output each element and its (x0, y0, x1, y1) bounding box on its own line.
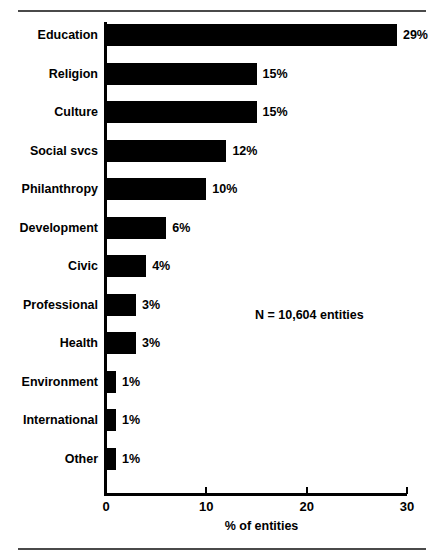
bar-category-label: Philanthropy (0, 178, 98, 200)
bar-category-label: International (0, 409, 98, 431)
bar (106, 332, 136, 354)
bar (106, 255, 146, 277)
bar-value-label: 4% (152, 255, 170, 277)
bar (106, 24, 397, 46)
bar-category-label: Religion (0, 63, 98, 85)
bar-row: Environment1% (0, 371, 441, 409)
bar-row: Philanthropy10% (0, 178, 441, 216)
bar-row: Other1% (0, 448, 441, 486)
bottom-divider-rule (18, 548, 426, 550)
x-axis-tick-label: 0 (102, 499, 109, 514)
x-axis-title: % of entities (0, 519, 441, 533)
bar-value-label: 10% (212, 178, 237, 200)
bar-row: Development6% (0, 217, 441, 255)
bar-row: Religion15% (0, 63, 441, 101)
x-axis-tick-label: 10 (199, 499, 213, 514)
bar-value-label: 6% (172, 217, 190, 239)
x-axis-line (104, 493, 407, 496)
bar-category-label: Professional (0, 294, 98, 316)
bar-category-label: Health (0, 332, 98, 354)
bar-value-label: 12% (232, 140, 257, 162)
bar-category-label: Education (0, 24, 98, 46)
sample-size-annotation: N = 10,604 entities (255, 308, 364, 322)
bar-value-label: 29% (403, 24, 428, 46)
bar-value-label: 3% (142, 332, 160, 354)
bar-row: Health3% (0, 332, 441, 370)
bar-value-label: 1% (122, 448, 140, 470)
bar-value-label: 1% (122, 371, 140, 393)
bar-category-label: Civic (0, 255, 98, 277)
x-axis-tick-label: 30 (400, 499, 414, 514)
bar-category-label: Other (0, 448, 98, 470)
bar (106, 140, 226, 162)
bar-row: Social svcs12% (0, 140, 441, 178)
bar (106, 409, 116, 431)
bar (106, 371, 116, 393)
bar (106, 178, 206, 200)
bar-category-label: Culture (0, 101, 98, 123)
bar (106, 448, 116, 470)
x-axis-tick (406, 487, 408, 494)
bar (106, 294, 136, 316)
bar (106, 217, 166, 239)
x-axis-title-label: % of entities (225, 519, 299, 533)
bar-category-label: Environment (0, 371, 98, 393)
bar-value-label: 1% (122, 409, 140, 431)
bar-row: Education29% (0, 24, 441, 62)
x-axis-tick (205, 487, 207, 494)
x-axis-tick (306, 487, 308, 494)
figure-page: Education29%Religion15%Culture15%Social … (0, 0, 441, 559)
bar-value-label: 15% (263, 63, 288, 85)
bar-row: Professional3% (0, 294, 441, 332)
bar (106, 63, 257, 85)
bar-category-label: Social svcs (0, 140, 98, 162)
bar-value-label: 3% (142, 294, 160, 316)
bar-row: International1% (0, 409, 441, 447)
bar-value-label: 15% (263, 101, 288, 123)
bar-category-label: Development (0, 217, 98, 239)
x-axis-tick-label: 20 (299, 499, 313, 514)
x-axis-tick (105, 487, 107, 494)
bar (106, 101, 257, 123)
bar-row: Culture15% (0, 101, 441, 139)
bar-chart-plot-area: Education29%Religion15%Culture15%Social … (0, 0, 441, 540)
bar-row: Civic4% (0, 255, 441, 293)
